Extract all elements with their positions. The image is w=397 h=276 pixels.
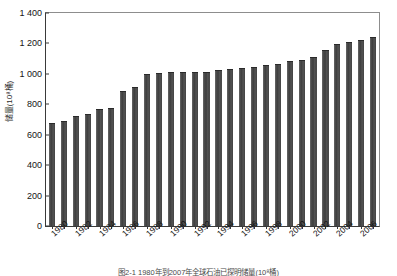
y-tick-mark (46, 73, 49, 74)
y-tick-label: 1 400 (19, 8, 42, 18)
bar-slot (367, 13, 379, 226)
bar-slot (213, 13, 225, 226)
bar[interactable] (215, 70, 221, 226)
bar-slot (141, 13, 153, 226)
y-tick-mark (46, 165, 49, 166)
bar-slot (296, 13, 308, 226)
bar-series (46, 13, 379, 226)
bar[interactable] (370, 37, 376, 226)
y-tick-label: 800 (27, 99, 42, 109)
bar[interactable] (299, 60, 305, 226)
bar[interactable] (287, 61, 293, 226)
bar[interactable] (251, 67, 257, 226)
bar-slot (248, 13, 260, 226)
bar[interactable] (156, 73, 162, 226)
bar[interactable] (322, 50, 328, 226)
bar-slot (355, 13, 367, 226)
bar-slot (320, 13, 332, 226)
bar-slot (129, 13, 141, 226)
bar-slot (153, 13, 165, 226)
bar-slot (236, 13, 248, 226)
y-tick-label: 600 (27, 130, 42, 140)
bar[interactable] (73, 116, 79, 226)
bar[interactable] (239, 68, 245, 226)
y-axis-title: 储量(10⁸桶) (3, 72, 14, 132)
bar-slot (165, 13, 177, 226)
bar-slot (58, 13, 70, 226)
bar-slot (343, 13, 355, 226)
plot-area: 02004006008001 0001 2001 400 (45, 12, 380, 227)
bar-slot (70, 13, 82, 226)
bar[interactable] (49, 123, 55, 226)
bar[interactable] (96, 109, 102, 226)
bar-slot (177, 13, 189, 226)
y-tick-mark (46, 195, 49, 196)
bar[interactable] (358, 40, 364, 226)
y-tick-label: 0 (37, 221, 42, 231)
bar[interactable] (334, 44, 340, 226)
bar-slot (272, 13, 284, 226)
y-tick-mark (46, 226, 49, 227)
bar[interactable] (120, 91, 126, 226)
y-tick-mark (46, 134, 49, 135)
bar-slot (331, 13, 343, 226)
bar[interactable] (180, 72, 186, 226)
bar[interactable] (85, 114, 91, 226)
bar-slot (308, 13, 320, 226)
y-tick-mark (46, 13, 49, 14)
bar[interactable] (227, 69, 233, 226)
bar-slot (105, 13, 117, 226)
bar[interactable] (108, 108, 114, 226)
bar-slot (201, 13, 213, 226)
bar-slot (82, 13, 94, 226)
y-tick-mark (46, 43, 49, 44)
chart-container: 储量(10⁸桶) 02004006008001 0001 2001 400 图2… (0, 0, 397, 276)
y-tick-label: 1 200 (19, 38, 42, 48)
y-tick-label: 1 000 (19, 69, 42, 79)
bar-slot (224, 13, 236, 226)
bar-slot (260, 13, 272, 226)
bar-slot (117, 13, 129, 226)
bar-slot (94, 13, 106, 226)
bar[interactable] (61, 121, 67, 226)
y-tick-label: 400 (27, 160, 42, 170)
bar[interactable] (263, 65, 269, 226)
bar-slot (284, 13, 296, 226)
bar[interactable] (168, 72, 174, 226)
bar[interactable] (275, 64, 281, 226)
y-tick-label: 200 (27, 191, 42, 201)
figure-caption: 图2-1 1980年到2007年全球石油已探明储量(10⁸桶) (0, 266, 397, 276)
bar[interactable] (192, 72, 198, 226)
bar[interactable] (310, 57, 316, 226)
bar[interactable] (132, 87, 138, 226)
bar[interactable] (144, 74, 150, 226)
bar-slot (189, 13, 201, 226)
bar-slot (46, 13, 58, 226)
bar[interactable] (346, 42, 352, 226)
bar[interactable] (203, 72, 209, 226)
y-tick-mark (46, 104, 49, 105)
